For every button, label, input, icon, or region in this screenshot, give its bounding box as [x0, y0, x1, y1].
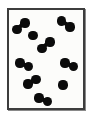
molecule-atom	[69, 62, 78, 71]
molecule-atom	[65, 22, 74, 31]
particle-layer	[0, 0, 91, 118]
figure-canvas	[0, 0, 91, 118]
molecule-atom	[45, 37, 54, 46]
molecule-atom	[43, 97, 52, 106]
molecule-atom	[20, 18, 29, 27]
single-atom	[58, 80, 67, 89]
molecule-atom	[31, 75, 40, 84]
molecule-atom	[24, 62, 33, 71]
single-atom	[28, 31, 37, 40]
